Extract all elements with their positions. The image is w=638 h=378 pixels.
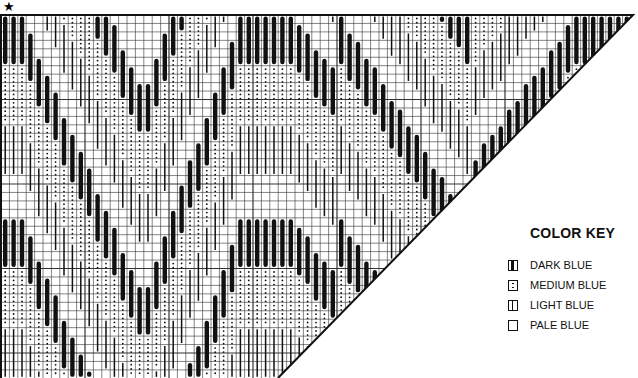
color-key-title: COLOR KEY — [530, 225, 615, 241]
dark-blue-symbol-icon — [508, 260, 518, 271]
key-row-medium-blue: MEDIUM BLUE — [508, 277, 606, 293]
pale-blue-symbol-icon — [508, 320, 518, 331]
key-label: LIGHT BLUE — [530, 299, 594, 311]
medium-blue-symbol-icon — [508, 280, 518, 291]
key-row-light-blue: LIGHT BLUE — [508, 297, 594, 313]
light-blue-symbol-icon — [508, 300, 518, 311]
key-label: DARK BLUE — [530, 259, 592, 271]
key-row-dark-blue: DARK BLUE — [508, 257, 592, 273]
key-label: MEDIUM BLUE — [530, 279, 606, 291]
key-row-pale-blue: PALE BLUE — [508, 317, 589, 333]
key-label: PALE BLUE — [530, 319, 589, 331]
start-star-icon: ★ — [3, 0, 15, 13]
